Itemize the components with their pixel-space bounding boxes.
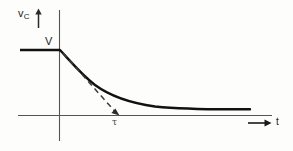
figure-canvas: vC V τ t <box>0 0 293 151</box>
waveform-plot <box>0 0 293 151</box>
arrow-up-icon <box>35 9 41 29</box>
initial-value-label: V <box>45 36 52 47</box>
exponential-decay-trace <box>60 50 250 109</box>
x-axis-label: t <box>276 117 279 127</box>
time-constant-label: τ <box>112 118 117 127</box>
y-axis-label: vC <box>18 8 29 21</box>
arrow-right-icon <box>248 120 272 127</box>
y-axis-label-subscript: C <box>24 12 30 21</box>
initial-tangent-dashed-line <box>63 53 120 116</box>
